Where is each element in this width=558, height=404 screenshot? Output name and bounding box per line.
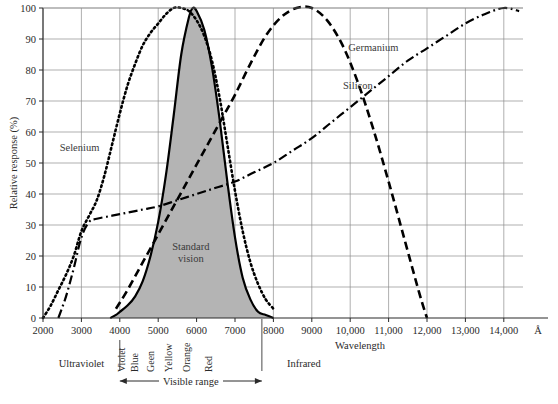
y-tick-label: 100	[20, 3, 36, 14]
chart-background	[0, 0, 558, 404]
x-tick-label: 3000	[71, 325, 92, 336]
spectrum-color-label-geen: Geen	[145, 351, 156, 372]
annotation-standard-vision-line2: vision	[178, 253, 204, 264]
y-tick-label: 30	[26, 220, 37, 231]
x-tick-label: 6000	[186, 325, 207, 336]
y-tick-label: 60	[26, 127, 37, 138]
visible-range-label: Visible range	[163, 376, 219, 387]
x-tick-label: 5000	[148, 325, 169, 336]
band-label-ultraviolet: Ultraviolet	[59, 358, 105, 369]
spectrum-color-label-yellow: Yellow	[163, 343, 174, 372]
x-tick-label: 13,000	[451, 325, 480, 336]
x-tick-label: 8000	[263, 325, 284, 336]
spectrum-color-label-orange: Orange	[181, 342, 192, 372]
spectrum-color-label-red: Red	[203, 356, 214, 372]
annotation-selenium: Selenium	[60, 142, 100, 153]
y-tick-label: 40	[26, 189, 37, 200]
x-axis-unit-angstrom: Å	[534, 325, 542, 336]
x-axis-title: Wavelength	[335, 340, 386, 351]
x-tick-label: 9000	[301, 325, 322, 336]
y-tick-label: 20	[26, 251, 37, 262]
annotation-silicon: Silicon	[343, 80, 374, 91]
annotation-standard-vision: Standard	[172, 241, 210, 252]
y-tick-label: 0	[31, 313, 36, 324]
y-tick-label: 70	[26, 96, 37, 107]
annotation-germanium: Germanium	[348, 42, 398, 53]
x-tick-label: 12,000	[413, 325, 442, 336]
y-tick-label: 80	[26, 65, 37, 76]
y-tick-label: 90	[26, 34, 37, 45]
y-tick-label: 50	[26, 158, 37, 169]
spectrum-color-label-violet: Violet	[116, 347, 127, 372]
x-tick-label: 4000	[109, 325, 130, 336]
band-label-infrared: Infrared	[287, 358, 322, 369]
x-tick-label: 7000	[225, 325, 246, 336]
chart-svg: 0102030405060708090100200030004000500060…	[0, 0, 558, 404]
x-tick-label: 14,000	[489, 325, 518, 336]
spectral-response-chart: 0102030405060708090100200030004000500060…	[0, 0, 558, 404]
spectrum-color-label-blue: Blue	[129, 353, 140, 372]
x-tick-label: 2000	[33, 325, 54, 336]
y-axis-title: Relative response (%)	[8, 116, 20, 209]
x-tick-label: 11,000	[374, 325, 403, 336]
x-tick-label: 10,000	[336, 325, 365, 336]
y-tick-label: 10	[26, 282, 37, 293]
